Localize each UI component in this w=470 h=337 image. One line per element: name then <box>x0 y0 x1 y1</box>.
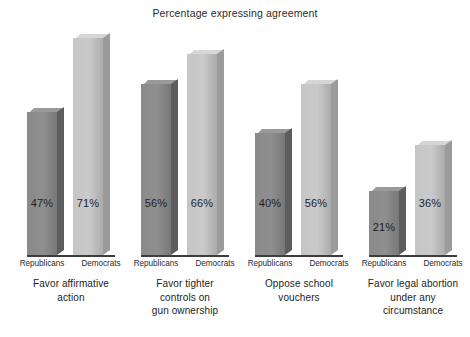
bar-value-label: 56% <box>301 197 331 209</box>
bar-value-label: 71% <box>73 197 103 209</box>
series-label-republicans: Republicans <box>354 259 414 268</box>
bar-group: 21% 36% <box>369 20 457 255</box>
bar-side-face <box>103 33 110 255</box>
bar-front-face <box>141 84 171 255</box>
category-label-line: action <box>8 291 134 305</box>
bar-value-label: 47% <box>27 197 57 209</box>
bar-side-face <box>445 140 452 255</box>
series-label-democrats: Democrats <box>73 259 129 268</box>
bar-group: 56% 66% <box>141 20 229 255</box>
series-label-republicans: Republicans <box>126 259 186 268</box>
bar-group: 40% 56% <box>255 20 343 255</box>
series-label-republicans: Republicans <box>12 259 72 268</box>
series-label-democrats: Democrats <box>415 259 470 268</box>
category-label-line: gun ownership <box>122 304 248 318</box>
bar-side-face <box>399 186 406 255</box>
bar-democrats[interactable]: 36% <box>415 145 445 255</box>
category-label-line: controls on <box>122 291 248 305</box>
bar-democrats[interactable]: 56% <box>301 84 331 255</box>
group-baseline-rule <box>27 255 115 257</box>
bar-front-face <box>73 38 103 255</box>
bar-front-face <box>27 112 57 255</box>
bar-value-label: 40% <box>255 197 285 209</box>
bar-value-label: 21% <box>369 221 399 233</box>
category-label-line: Favor tighter <box>122 277 248 291</box>
category-label: Favor legal abortion under any circumsta… <box>348 277 470 318</box>
bar-side-face <box>331 79 338 255</box>
bar-republicans[interactable]: 56% <box>141 84 171 255</box>
category-label-line: Favor affirmative <box>8 277 134 291</box>
category-label-line: circumstance <box>348 304 470 318</box>
category-label-line: Oppose school <box>236 277 362 291</box>
category-label: Favor affirmative action <box>8 277 134 304</box>
bar-front-face <box>301 84 331 255</box>
series-label-republicans: Republicans <box>240 259 300 268</box>
bar-republicans[interactable]: 40% <box>255 133 285 255</box>
chart-title: Percentage expressing agreement <box>0 7 470 19</box>
bar-side-face <box>285 128 292 255</box>
group-baseline-rule <box>369 255 457 257</box>
bar-democrats[interactable]: 71% <box>73 38 103 255</box>
bar-democrats[interactable]: 66% <box>187 54 217 255</box>
category-label-line: under any <box>348 291 470 305</box>
bar-value-label: 36% <box>415 197 445 209</box>
bar-side-face <box>217 49 224 255</box>
bar-value-label: 66% <box>187 197 217 209</box>
bar-republicans[interactable]: 47% <box>27 112 57 255</box>
group-baseline-rule <box>141 255 229 257</box>
bar-chart: Percentage expressing agreement 47% 71% <box>0 0 470 337</box>
bar-side-face <box>57 107 64 255</box>
bar-group: 47% 71% <box>27 20 115 255</box>
bar-front-face <box>255 133 285 255</box>
bar-value-label: 56% <box>141 197 171 209</box>
category-label-line: vouchers <box>236 291 362 305</box>
category-label: Favor tighter controls on gun ownership <box>122 277 248 318</box>
category-label: Oppose school vouchers <box>236 277 362 304</box>
series-label-democrats: Democrats <box>187 259 243 268</box>
group-baseline-rule <box>255 255 343 257</box>
bar-republicans[interactable]: 21% <box>369 191 399 255</box>
bar-front-face <box>187 54 217 255</box>
plot-area: 47% 71% 56% 66% <box>0 20 470 255</box>
category-label-line: Favor legal abortion <box>348 277 470 291</box>
bar-side-face <box>171 79 178 255</box>
series-label-democrats: Democrats <box>301 259 357 268</box>
